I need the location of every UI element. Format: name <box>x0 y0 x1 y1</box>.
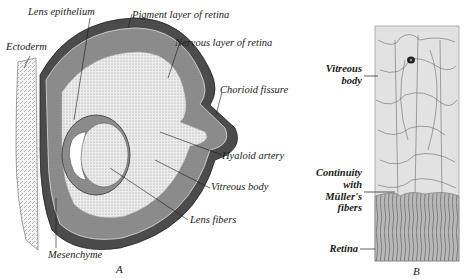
label-b-continuity-line1: Continuity <box>300 168 362 179</box>
label-lens-fibers: Lens fibers <box>190 215 236 226</box>
label-pigment-layer: Pigment layer of retina <box>132 10 229 21</box>
label-vitreous-body: Vitreous body <box>211 182 268 193</box>
label-b-continuity-line2: with <box>300 180 362 191</box>
label-b-continuity-line4: fibers <box>300 203 362 214</box>
panel-letter-a: A <box>116 263 123 275</box>
label-nervous-layer: Nervous layer of retina <box>175 38 272 49</box>
label-b-vitreous-line2: body <box>312 76 362 87</box>
label-mesenchyme: Mesenchyme <box>48 250 102 261</box>
label-ectoderm: Ectoderm <box>6 42 47 53</box>
panel-b-illustration <box>360 26 459 261</box>
label-b-retina: Retina <box>300 244 358 255</box>
label-lens-epithelium: Lens epithelium <box>28 7 95 18</box>
label-b-vitreous-line1: Vitreous <box>312 64 362 75</box>
panel-letter-b: B <box>413 265 420 277</box>
label-chorioid-fissure: Chorioid fissure <box>220 85 288 96</box>
label-hyaloid-artery: Hyaloid artery <box>222 151 284 162</box>
label-b-continuity-line3: Müller's <box>300 192 362 203</box>
